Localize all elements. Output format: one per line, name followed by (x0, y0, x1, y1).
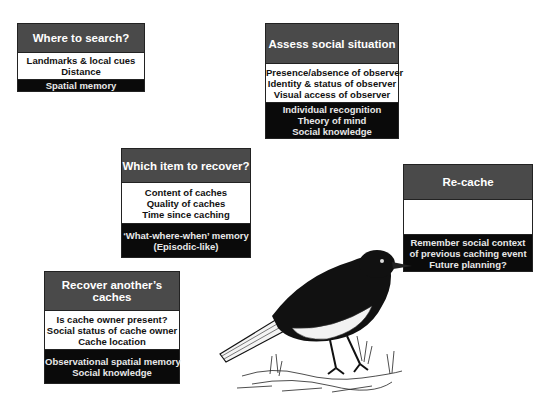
cognition-item: Observational spatial memory (45, 356, 179, 367)
cognition-panel: Individual recognition Theory of mind So… (266, 103, 398, 138)
cognition-item: Spatial memory (18, 80, 144, 91)
factor: Social status of cache owner (45, 325, 179, 336)
bird-illustration (212, 236, 422, 396)
box-re-cache: Re-cache Remember social context of prev… (403, 164, 533, 272)
factor: Landmarks & local cues (18, 55, 144, 66)
box-title: Recover another’s caches (45, 272, 179, 310)
factor: Presence/absence of observer (266, 67, 398, 78)
cognition-item: of previous caching event (404, 248, 532, 259)
factor: Visual access of observer (266, 89, 398, 100)
cognition-item: Individual recognition (266, 104, 398, 115)
factors-panel (404, 199, 532, 235)
cognition-item: Social knowledge (45, 367, 179, 378)
box-title: Re-cache (404, 165, 532, 199)
box-title: Assess social situation (266, 24, 398, 63)
cognition-item: Future planning? (404, 259, 532, 270)
cognition-item: Theory of mind (266, 115, 398, 126)
factor: Quality of caches (122, 198, 250, 209)
box-where-to-search: Where to search? Landmarks & local cues … (17, 23, 145, 92)
cognition-item: Social knowledge (266, 126, 398, 137)
box-assess-social-situation: Assess social situation Presence/absence… (265, 23, 399, 139)
factor: Time since caching (122, 209, 250, 220)
factor: Cache location (45, 336, 179, 347)
factor: Content of caches (122, 187, 250, 198)
cognition-item: Remember social context (404, 237, 532, 248)
factors-panel: Is cache owner present? Social status of… (45, 310, 179, 350)
cognition-panel: Remember social context of previous cach… (404, 235, 532, 271)
factors-panel: Content of caches Quality of caches Time… (122, 182, 250, 224)
box-recover-anothers-caches: Recover another’s caches Is cache owner … (44, 271, 180, 384)
box-title: Which item to recover? (122, 149, 250, 182)
factor: Is cache owner present? (45, 314, 179, 325)
cognition-panel: Observational spatial memory Social know… (45, 350, 179, 383)
factors-panel: Landmarks & local cues Distance (18, 52, 144, 80)
factor: Distance (18, 66, 144, 77)
box-title: Where to search? (18, 24, 144, 52)
cognition-panel: Spatial memory (18, 80, 144, 91)
factor: Identity & status of observer (266, 78, 398, 89)
factors-panel: Presence/absence of observer Identity & … (266, 63, 398, 103)
